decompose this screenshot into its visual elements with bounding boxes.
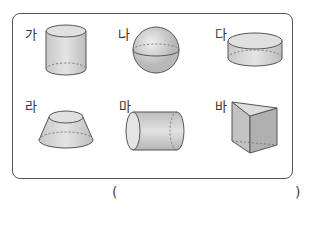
short-cylinder-shape xyxy=(226,32,286,70)
truncated-cone-shape xyxy=(37,109,97,153)
sphere-shape xyxy=(131,25,181,75)
cylinder-shape xyxy=(43,22,89,80)
item-label-ra: 라 xyxy=(25,96,37,115)
item-label-ga: 가 xyxy=(25,24,37,43)
horizontal-cylinder-shape xyxy=(124,110,188,154)
triangular-prism-shape xyxy=(230,100,282,156)
answer-open-paren: ( xyxy=(112,184,117,200)
answer-close-paren: ) xyxy=(295,184,300,200)
item-label-na: 나 xyxy=(118,24,130,43)
item-label-ba: 바 xyxy=(215,96,227,115)
